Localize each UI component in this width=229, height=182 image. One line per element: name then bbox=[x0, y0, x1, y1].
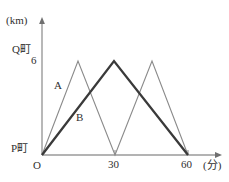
y-label-q-town: Q町 bbox=[12, 44, 31, 55]
series-b-line bbox=[42, 61, 188, 155]
y-label-p-town: P町 bbox=[11, 143, 28, 154]
series-a-line bbox=[42, 61, 188, 155]
series-b-label: B bbox=[76, 112, 83, 123]
x-tick-label-60: 60 bbox=[181, 159, 192, 170]
graph-canvas bbox=[0, 0, 229, 182]
x-axis-unit-label: (分) bbox=[203, 160, 221, 171]
y-tick-label-6: 6 bbox=[31, 55, 37, 66]
series-a-label: A bbox=[54, 80, 62, 91]
x-axis-arrow-icon bbox=[215, 152, 222, 158]
y-axis-unit-label: (km) bbox=[6, 15, 27, 26]
distance-time-graph: (km) Q町 6 P町 O 30 60 (分) A B bbox=[0, 0, 229, 182]
origin-label: O bbox=[33, 160, 41, 171]
x-tick-label-30: 30 bbox=[108, 159, 119, 170]
y-axis-arrow-icon bbox=[39, 17, 45, 24]
